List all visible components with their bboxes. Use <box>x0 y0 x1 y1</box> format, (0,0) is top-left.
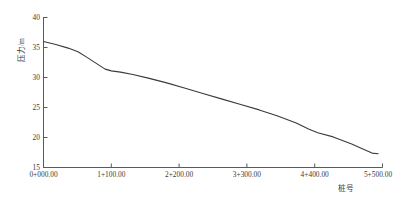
line-chart: 压力/m 15 20 25 30 35 40 <box>0 0 404 211</box>
x-axis-title: 桩号 <box>338 183 354 193</box>
y-tick-label: 25 <box>33 103 41 112</box>
x-tick-label: 2+200.00 <box>165 170 193 179</box>
x-tick-label: 5+500.00 <box>364 170 392 179</box>
x-tick-label: 3+300.00 <box>233 170 261 179</box>
y-tick-label: 30 <box>33 73 41 82</box>
x-ticks <box>44 164 383 168</box>
x-tick-labels: 0+000.00 1+100.00 2+200.00 3+300.00 4+40… <box>29 170 392 179</box>
y-axis-title: 压力/m <box>16 38 26 62</box>
y-tick-label: 20 <box>33 133 41 142</box>
y-tick-label: 35 <box>33 43 41 52</box>
y-ticks <box>44 18 48 168</box>
y-tick-labels: 15 20 25 30 35 40 <box>33 13 41 172</box>
y-tick-label: 40 <box>33 13 41 22</box>
x-tick-label: 1+100.00 <box>97 170 125 179</box>
x-tick-label: 4+400.00 <box>301 170 329 179</box>
data-series-line <box>44 42 379 154</box>
figure-container: 压力/m 15 20 25 30 35 40 <box>0 0 404 211</box>
x-tick-label: 0+000.00 <box>29 170 57 179</box>
